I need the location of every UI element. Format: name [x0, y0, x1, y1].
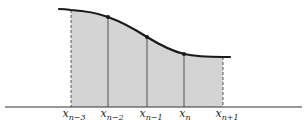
label-x-n: xn — [179, 107, 190, 120]
area-under-curve-diagram — [0, 0, 307, 120]
point-marker-x-n-1 — [145, 35, 149, 39]
point-marker-x-n — [182, 52, 186, 56]
label-x-n-2: xn−2 — [100, 107, 123, 120]
label-x-n-1: xn−1 — [139, 107, 162, 120]
label-x-n+1: xn+1 — [215, 107, 238, 120]
point-marker-x-n-2 — [106, 15, 110, 19]
label-x-n-3: xn−3 — [62, 107, 85, 120]
